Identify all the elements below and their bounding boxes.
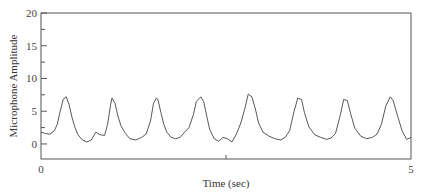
y-tick-label: 15	[26, 40, 38, 52]
plot-frame	[41, 13, 411, 159]
signal-line	[41, 94, 411, 142]
y-axis-ticks: 05101520	[26, 7, 47, 150]
y-tick-label: 5	[32, 105, 38, 117]
y-tick-label: 10	[26, 72, 38, 84]
x-axis-ticks: 05	[38, 155, 414, 175]
x-tick-label: 5	[408, 163, 414, 175]
y-tick-label: 20	[26, 7, 38, 19]
microphone-amplitude-chart: 05101520 05 Time (sec) Microphone Amplit…	[0, 0, 425, 194]
x-tick-label: 0	[38, 163, 44, 175]
y-tick-label: 0	[32, 138, 38, 150]
y-axis-title: Microphone Amplitude	[7, 34, 19, 137]
x-axis-title: Time (sec)	[203, 177, 250, 190]
